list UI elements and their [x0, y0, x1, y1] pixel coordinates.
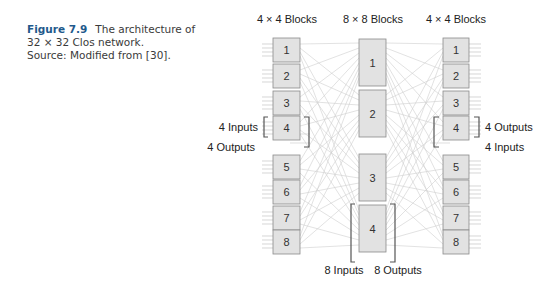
left-inputs-label: 4 Inputs: [219, 121, 259, 133]
middle-block-4: 4: [369, 223, 375, 235]
left-block-1: 1: [283, 44, 289, 56]
left-outputs-label: 4 Outputs: [207, 141, 255, 153]
middle-outputs-label: 8 Outputs: [374, 264, 422, 276]
middle-inputs-bracket: [351, 204, 355, 262]
middle-inputs-label: 8 Inputs: [324, 264, 364, 276]
middle-block-3: 3: [369, 172, 375, 184]
right-block-1: 1: [453, 44, 459, 56]
left-block-3: 3: [283, 97, 289, 109]
right-stage-block-numbers: 1 2 3 4 5 6 7 8: [453, 44, 459, 248]
right-block-3: 3: [453, 97, 459, 109]
right-block-5: 5: [453, 161, 459, 173]
middle-stage-blocks: [359, 39, 386, 252]
right-block-8: 8: [453, 236, 459, 248]
left-block-6: 6: [283, 186, 289, 198]
right-block-2: 2: [453, 70, 459, 82]
right-block-7: 7: [453, 212, 459, 224]
right-block-4: 4: [453, 122, 459, 134]
left-block-5: 5: [283, 161, 289, 173]
right-inputs-label: 4 Inputs: [485, 141, 525, 153]
right-block-6: 6: [453, 186, 459, 198]
right-stage-header: 4 × 4 Blocks: [426, 13, 487, 25]
middle-block-2: 2: [369, 108, 375, 120]
right-outputs-label: 4 Outputs: [485, 121, 533, 133]
left-block-8: 8: [283, 236, 289, 248]
middle-stage-header: 8 × 8 Blocks: [343, 13, 404, 25]
left-stage-block-numbers: 1 2 3 4 5 6 7 8: [283, 44, 289, 248]
clos-network-diagram: 4 × 4 Blocks 8 × 8 Blocks 4 × 4 Blocks 1…: [0, 0, 555, 287]
left-block-7: 7: [283, 212, 289, 224]
middle-block-1: 1: [369, 57, 375, 69]
left-block-4: 4: [283, 122, 289, 134]
middle-outputs-bracket: [390, 204, 395, 262]
left-block-2: 2: [283, 70, 289, 82]
left-stage-header: 4 × 4 Blocks: [257, 13, 318, 25]
